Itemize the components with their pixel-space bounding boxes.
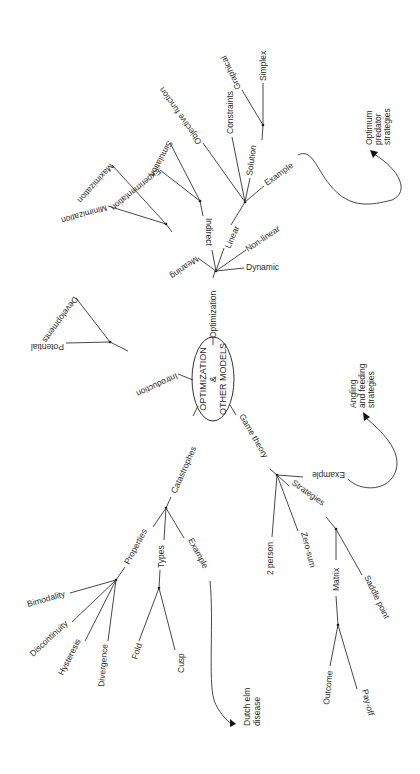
center-label-1: OPTIMIZATION <box>198 347 208 410</box>
node-saddle-point: Saddle point <box>362 573 392 620</box>
node-optimization: Optimization <box>208 290 218 338</box>
node-fold: Fold <box>129 642 144 661</box>
node-discontinuity: Discontinuity <box>28 618 71 659</box>
node-meaning: Meaning <box>168 254 201 281</box>
node-bimodality: Bimodality <box>26 588 67 609</box>
arrow-to-angling <box>348 418 397 488</box>
node-zero-sum: Zero-sum <box>299 531 318 569</box>
branch-introduction: Introduction Potential Developments <box>31 295 193 399</box>
target-angling-line3: strategies <box>366 371 376 408</box>
node-outcome: Outcome <box>321 670 335 706</box>
node-strategies: Strategies <box>290 477 327 507</box>
arrowhead-icon <box>230 719 236 727</box>
target-optimum-line3: strategies <box>382 108 392 145</box>
node-cusp: Cusp <box>176 653 186 673</box>
node-developments: Developments <box>40 295 80 345</box>
target-dutch-elm-line2: disease <box>252 696 262 726</box>
node-matrix: Matrix <box>331 567 341 591</box>
node-objective-function: Objective function <box>157 85 204 146</box>
branch-catastrophes: Catastrophes Properties Bimodality Disco… <box>26 406 262 727</box>
node-simplex: Simplex <box>258 50 268 81</box>
arrow-to-optimum-predator <box>298 154 401 205</box>
node-example-catastrophes: Example <box>186 536 210 570</box>
node-introduction: Introduction <box>135 371 180 399</box>
node-maximization: Maximization <box>75 162 116 206</box>
node-graphical: Graphical <box>218 54 242 91</box>
mind-map-diagram: OPTIMIZATION & OTHER MODELS Optimization… <box>0 0 420 774</box>
center-label-2: & <box>208 376 218 382</box>
node-linear: Linear <box>223 224 242 250</box>
node-types: Types <box>156 545 166 568</box>
center-label-3: OTHER MODELS <box>218 343 228 415</box>
target-dutch-elm-line1: Dutch elm <box>242 688 252 726</box>
node-example-game: Example <box>312 470 345 480</box>
node-constraints: Constraints <box>225 91 235 134</box>
node-game-theory: Game theory <box>237 412 271 460</box>
node-indirect: Indirect <box>204 218 214 247</box>
center-node: OPTIMIZATION & OTHER MODELS <box>192 337 234 421</box>
branch-game-theory: Game theory Example Angling and feeding … <box>230 363 397 717</box>
node-pay-off: Pay-off <box>360 688 376 717</box>
node-properties: Properties <box>122 527 149 566</box>
arrowhead-icon <box>370 150 378 158</box>
node-2-person: 2 person <box>265 542 275 575</box>
arrowhead-icon <box>363 412 370 421</box>
branch-optimization: Optimization Dynamic Non-linear Linear O… <box>60 50 401 345</box>
node-example-linear: Example <box>262 160 295 188</box>
node-divergence: Divergence <box>96 643 110 687</box>
node-catastrophes: Catastrophes <box>169 445 199 495</box>
arrow-to-dutch-elm <box>210 581 232 724</box>
node-non-linear: Non-linear <box>244 223 282 253</box>
node-solution: Solution <box>244 144 258 176</box>
node-hysteresis: Hysteresis <box>56 637 83 677</box>
node-minimization: Minimization <box>60 203 108 226</box>
node-dynamic: Dynamic <box>246 262 280 272</box>
